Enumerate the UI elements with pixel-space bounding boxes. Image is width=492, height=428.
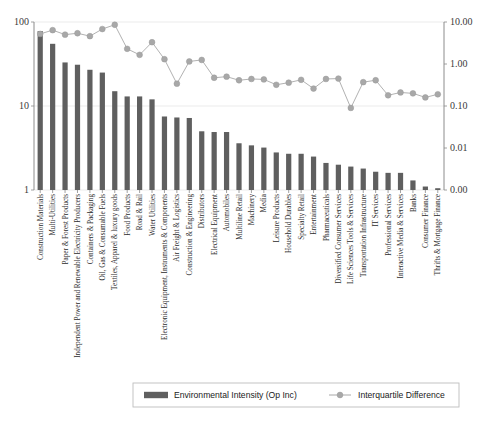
bar [100, 73, 105, 190]
line-marker [50, 27, 56, 33]
category-label: Multiline Retail [236, 194, 244, 240]
line-marker [385, 92, 391, 98]
legend-label-environmental-intensity: Environmental Intensity (Op Inc) [174, 390, 297, 400]
category-label: Machinery [248, 194, 256, 226]
left-tick-label: 1 [24, 184, 29, 195]
category-label: Oil, Gas & Consumable Fuels [99, 194, 107, 281]
line-marker [249, 76, 255, 82]
bar [410, 180, 415, 190]
category-label: Life Sciences Tools & Services [347, 194, 355, 284]
line-marker [62, 32, 68, 38]
environmental-intensity-chart: 110100 0.000.010.101.0010.00 Constructio… [0, 0, 492, 428]
category-label: Leisure Products [273, 194, 281, 243]
bar [174, 117, 179, 190]
category-label: Electrical Equipment [211, 194, 219, 255]
bar [249, 145, 254, 190]
bar [423, 187, 428, 190]
line-marker [162, 56, 168, 62]
category-label: Household Durables [285, 194, 293, 253]
legend-label-interquartile-difference: Interquartile Difference [358, 390, 445, 400]
right-tick-label: 10.00 [450, 16, 473, 27]
category-label: Professional Services [385, 194, 393, 256]
category-label: Multi-Utilities [49, 194, 57, 236]
bar [236, 143, 241, 190]
bar [373, 172, 378, 190]
category-label: Paper & Forest Products [62, 194, 70, 265]
line-marker [422, 95, 428, 101]
bar [50, 44, 55, 190]
bar [137, 96, 142, 190]
right-axis: 0.000.010.101.0010.00 [444, 16, 473, 195]
line-marker [286, 80, 292, 86]
category-label: Specialty Retail [298, 194, 306, 240]
right-tick-label: 0.10 [450, 100, 468, 111]
line-marker [335, 76, 341, 82]
line-marker [323, 76, 329, 82]
line-marker [273, 82, 279, 88]
bar [87, 70, 92, 190]
legend-swatch-bar [144, 392, 168, 398]
category-label: Containers & Packaging [87, 194, 95, 265]
bar [311, 157, 316, 190]
left-tick-label: 10 [19, 100, 29, 111]
line-marker [186, 59, 192, 65]
right-tick-label: 0.00 [450, 184, 468, 195]
category-label: Thrifts & Mortgage Finance [434, 194, 442, 275]
left-axis: 110100 [14, 16, 34, 195]
bar [162, 116, 167, 190]
line-marker [224, 74, 230, 80]
line-marker [124, 46, 130, 52]
category-label: Automobiles [223, 194, 231, 231]
category-label: Distributors [198, 194, 206, 229]
bar-series-environmental-intensity [38, 31, 441, 190]
line-marker [87, 33, 93, 39]
category-label: Construction Materials [37, 194, 45, 260]
line-marker [398, 90, 404, 96]
category-label: Diversified Consumer Services [335, 194, 343, 284]
line-marker [199, 57, 205, 63]
chart-container: 110100 0.000.010.101.0010.00 Constructio… [0, 0, 492, 428]
left-tick-label: 100 [14, 16, 29, 27]
line-marker [236, 77, 242, 83]
category-axis-labels: Construction MaterialsMulti-UtilitiesPap… [37, 190, 443, 358]
line-marker [261, 76, 267, 82]
line-marker [360, 79, 366, 85]
bar [348, 167, 353, 190]
line-marker [211, 75, 217, 81]
line-marker [373, 77, 379, 83]
chart-legend: Environmental Intensity (Op Inc)Interqua… [133, 383, 459, 407]
bar [112, 91, 117, 190]
line-marker [348, 105, 354, 111]
line-marker [112, 22, 118, 28]
line-marker [435, 91, 441, 97]
line-marker [99, 26, 105, 32]
bar [187, 118, 192, 190]
bar [323, 163, 328, 190]
bar [361, 169, 366, 190]
bar [261, 148, 266, 190]
bar [385, 173, 390, 190]
bar [212, 132, 217, 190]
category-label: Air Freight & Logistics [173, 194, 181, 262]
bar [199, 131, 204, 190]
category-label: Water Utilities [149, 194, 157, 236]
bar [286, 154, 291, 190]
bar [299, 154, 304, 190]
bar [125, 96, 130, 190]
category-label: Entertainment [310, 194, 318, 235]
line-marker [174, 81, 180, 87]
bar [75, 65, 80, 190]
category-label: Independent Power and Renewable Electric… [74, 194, 82, 358]
line-marker [37, 31, 43, 37]
line-marker [75, 30, 81, 36]
category-label: Banks [410, 194, 418, 212]
bar [149, 99, 154, 190]
right-tick-label: 1.00 [450, 58, 468, 69]
bar [274, 152, 279, 190]
category-label: Road & Rail [136, 194, 144, 230]
category-label: Transportation Infrastructure [360, 194, 368, 277]
category-label: Interactive Media & Services [397, 194, 405, 279]
line-marker [410, 90, 416, 96]
line-marker [311, 86, 317, 92]
category-label: Electronic Equipment, Instruments & Comp… [161, 194, 169, 340]
